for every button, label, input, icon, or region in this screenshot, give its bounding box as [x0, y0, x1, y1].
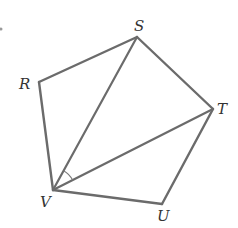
stray-mark [0, 28, 3, 31]
pentagon-diagram: S T U V R [0, 0, 238, 228]
label-s: S [134, 17, 144, 35]
side-uv [53, 190, 162, 204]
diagonal-vs [53, 37, 137, 190]
side-tu [162, 109, 213, 204]
diagonal-vt [53, 109, 213, 190]
side-vr [39, 82, 53, 190]
side-rs [39, 37, 137, 82]
side-st [137, 37, 213, 109]
label-r: R [18, 75, 30, 93]
label-u: U [157, 207, 171, 225]
angle-arc-svt [64, 171, 73, 180]
label-v: V [40, 193, 53, 211]
label-t: T [217, 100, 228, 118]
